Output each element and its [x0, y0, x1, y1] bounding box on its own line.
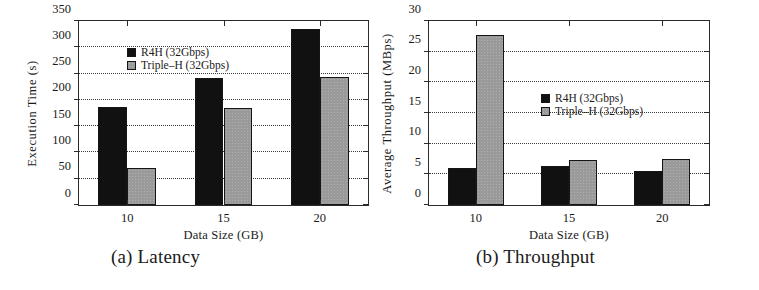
y-axis-tick: [424, 112, 429, 113]
legend-label-triple-h: Triple–H (32Gbps): [555, 106, 643, 118]
y-axis-tick: [363, 46, 368, 47]
y-axis-tick-label: 10: [409, 125, 422, 138]
y-axis-tick: [363, 125, 368, 126]
x-axis-title-latency: Data Size (GB): [78, 228, 369, 243]
y-axis-tick: [704, 81, 709, 82]
y-axis-tick: [74, 151, 79, 152]
x-axis-tick: [127, 21, 128, 26]
y-axis-tick-label: 25: [409, 33, 422, 46]
y-axis-tick: [74, 20, 79, 21]
x-axis-tick-label: 20: [314, 212, 327, 225]
x-axis-tick: [127, 200, 128, 205]
y-axis-tick: [74, 73, 79, 74]
bar: [127, 168, 156, 205]
legend-swatch-r4h-icon: [541, 94, 550, 103]
gridline: [79, 73, 368, 74]
legend-swatch-triple-h-icon: [541, 107, 550, 116]
y-axis-tick-label: 0: [415, 186, 421, 199]
legend-label-r4h: R4H (32Gbps): [555, 93, 623, 105]
bar: [541, 166, 569, 205]
y-axis-tick: [74, 125, 79, 126]
bar: [569, 160, 597, 205]
gridline: [429, 51, 709, 52]
y-axis-tick-label: 0: [65, 186, 71, 199]
y-axis-tick: [74, 46, 79, 47]
y-axis-tick-label: 30: [409, 2, 422, 15]
x-axis-tick: [476, 200, 477, 205]
bar: [476, 35, 504, 206]
y-axis-tick: [424, 204, 429, 205]
panel-latency: Execution Time (s) 050100150200250300350…: [0, 0, 379, 290]
y-axis-tick: [424, 143, 429, 144]
y-axis-tick-label: 5: [415, 156, 421, 169]
y-axis-tick: [704, 173, 709, 174]
bar: [224, 108, 253, 205]
legend-throughput: R4H (32Gbps) Triple–H (32Gbps): [541, 93, 643, 117]
x-axis-tick: [320, 200, 321, 205]
x-axis-tick: [662, 200, 663, 205]
x-axis-tick-label: 10: [469, 212, 482, 225]
bar: [662, 159, 690, 205]
legend-item-r4h: R4H (32Gbps): [541, 93, 643, 105]
x-axis-tick: [662, 21, 663, 26]
legend-swatch-r4h-icon: [127, 48, 136, 57]
y-axis-tick-label: 100: [52, 134, 71, 147]
bar: [291, 29, 320, 205]
x-axis-tick: [569, 200, 570, 205]
y-axis-tick: [704, 51, 709, 52]
y-axis-tick: [704, 20, 709, 21]
bar: [195, 78, 224, 205]
y-axis-tick: [363, 204, 368, 205]
y-axis-tick-label: 200: [52, 81, 71, 94]
bar: [448, 168, 476, 205]
y-axis-tick: [363, 178, 368, 179]
gridline: [429, 143, 709, 144]
y-axis-tick: [363, 151, 368, 152]
y-axis-tick-label: 250: [52, 55, 71, 68]
y-axis-tick: [424, 20, 429, 21]
y-axis-tick-label: 20: [409, 64, 422, 77]
bar: [634, 171, 662, 205]
y-axis-tick-label: 15: [409, 94, 422, 107]
figure-two-panel: Execution Time (s) 050100150200250300350…: [0, 0, 759, 290]
x-axis-tick-label: 15: [217, 212, 230, 225]
y-axis-tick: [74, 99, 79, 100]
y-axis-tick: [424, 173, 429, 174]
x-axis-tick-label: 15: [563, 212, 576, 225]
x-axis-tick-label: 20: [656, 212, 669, 225]
y-axis-tick: [74, 204, 79, 205]
legend-item-triple-h: Triple–H (32Gbps): [541, 106, 643, 118]
plot-area-latency: 050100150200250300350101520 R4H (32Gbps)…: [78, 20, 369, 206]
x-axis-tick: [224, 21, 225, 26]
x-axis-tick-label: 10: [121, 212, 134, 225]
bar: [320, 77, 349, 205]
y-axis-tick: [704, 143, 709, 144]
plot-area-throughput: 051015202530101520 R4H (32Gbps) Triple–H…: [428, 20, 710, 206]
y-axis-tick-label: 50: [59, 160, 72, 173]
y-axis-tick-label: 350: [52, 2, 71, 15]
caption-latency: (a) Latency: [0, 246, 345, 268]
y-axis-tick: [424, 51, 429, 52]
y-axis-tick-label: 300: [52, 29, 71, 42]
y-axis-tick: [704, 112, 709, 113]
y-axis-tick: [704, 204, 709, 205]
legend-latency: R4H (32Gbps) Triple–H (32Gbps): [127, 47, 229, 71]
panel-throughput: Average Throughput (MBps) 05101520253010…: [380, 0, 759, 290]
y-axis-tick: [363, 20, 368, 21]
x-axis-tick: [476, 21, 477, 26]
x-axis-tick: [569, 21, 570, 26]
x-axis-tick: [320, 21, 321, 26]
y-axis-title-throughput: Average Throughput (MBps): [380, 21, 395, 207]
x-axis-tick: [224, 200, 225, 205]
gridline: [429, 81, 709, 82]
legend-item-r4h: R4H (32Gbps): [127, 47, 229, 59]
legend-item-triple-h: Triple–H (32Gbps): [127, 60, 229, 72]
y-axis-tick: [424, 81, 429, 82]
y-axis-tick: [363, 73, 368, 74]
bar: [98, 107, 127, 205]
caption-throughput: (b) Throughput: [346, 246, 725, 268]
y-axis-tick: [363, 99, 368, 100]
legend-swatch-triple-h-icon: [127, 61, 136, 70]
legend-label-triple-h: Triple–H (32Gbps): [141, 60, 229, 72]
legend-label-r4h: R4H (32Gbps): [141, 47, 209, 59]
